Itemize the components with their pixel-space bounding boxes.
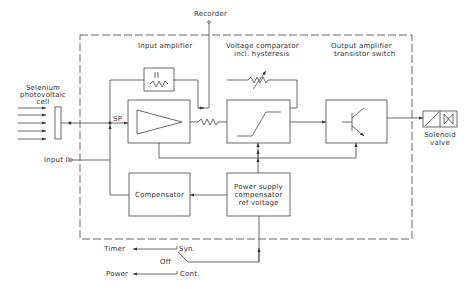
selenium-cell <box>55 107 61 139</box>
comparator-label-2: incl. hysteresis <box>234 50 289 58</box>
feedback-rc <box>144 68 174 91</box>
solenoid-label-1: Solenoid <box>420 131 460 139</box>
solenoid-label-2: valve <box>420 139 460 147</box>
light-rays <box>18 108 46 139</box>
comparator-label-1: Voltage comparator <box>226 42 299 50</box>
power-label: Power <box>106 270 128 278</box>
system-boundary <box>80 35 412 239</box>
power-supply-label-1: Power supply <box>227 183 290 191</box>
output-label-1: Output amplifier <box>331 42 392 50</box>
selenium-label-3: cell <box>12 98 74 106</box>
cont-label: Cont. <box>180 270 200 278</box>
output-label-2: transistor switch <box>334 50 395 58</box>
timer-label: Timer <box>104 245 125 253</box>
compensator-label: Compensator <box>129 191 190 199</box>
comparator-block <box>227 100 290 143</box>
input2-label: Input II <box>44 156 70 164</box>
input-amplifier-label: Input amplifier <box>138 42 192 50</box>
sp-label: SP <box>113 115 122 123</box>
power-supply-label-3: ref voltage <box>227 199 290 207</box>
off-label: Off <box>160 258 171 266</box>
recorder-label: Recorder <box>194 10 227 18</box>
power-supply-label-2: compensator <box>227 191 290 199</box>
output-amplifier-block <box>326 100 387 143</box>
syn-label: Syn. <box>179 245 195 253</box>
